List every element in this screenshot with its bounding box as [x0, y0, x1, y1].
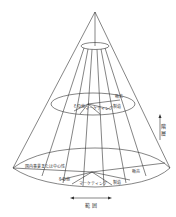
- mid-label-sales: 販売: [115, 93, 123, 99]
- axis-label-scope: 範 囲: [85, 202, 97, 209]
- cone-diagram: その他 マーケティング 販売 製造 国内事業または中心性 その他 マーケティング…: [0, 0, 176, 217]
- hierarchy-arrowhead: [159, 114, 162, 118]
- base-label-sales: 販売: [132, 168, 140, 174]
- base-label-other: その他: [58, 176, 70, 182]
- base-label-manufacturing: 製造: [113, 179, 121, 185]
- mid-label-manufacturing: 製造: [113, 103, 121, 109]
- cone-right-edge: [95, 12, 170, 168]
- base-label-marketing: マーケティング: [79, 180, 107, 186]
- scope-arrowhead-left: [70, 197, 74, 200]
- base-label-core: 国内事業または中心性: [25, 163, 65, 169]
- mid-label-marketing: マーケティング: [85, 105, 113, 111]
- axis-label-hierarchy: 階 層: [160, 123, 166, 137]
- cone-left-edge: [13, 12, 95, 168]
- mid-label-other: その他: [73, 103, 85, 109]
- scope-arrowhead-right: [108, 197, 112, 200]
